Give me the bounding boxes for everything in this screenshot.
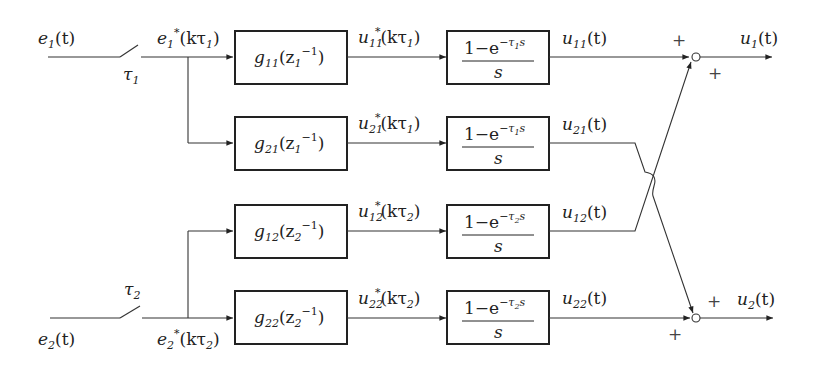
hold-block-1[interactable]: 1−e−τ1s s xyxy=(447,31,549,84)
label-u12-star: u12*(kτ2) xyxy=(358,199,420,224)
label-u11-star: u11*(kτ1) xyxy=(358,25,420,50)
svg-text:s: s xyxy=(494,148,503,168)
label-u11: u11(t) xyxy=(562,28,607,51)
sum1-sign-top: + xyxy=(672,30,686,50)
sampler-switch-2 xyxy=(120,306,233,318)
label-u22: u22(t) xyxy=(562,288,607,311)
branch-e2-to-g12 xyxy=(188,231,233,318)
sum2-sign-bottom: + xyxy=(668,324,682,344)
label-tau1: τ1 xyxy=(123,64,139,87)
svg-text:s: s xyxy=(494,322,503,342)
label-u12: u12(t) xyxy=(562,202,607,225)
label-e1: e1(t) xyxy=(38,28,75,51)
svg-text:s: s xyxy=(494,62,503,82)
controller-g12[interactable]: g12(z2−1) xyxy=(235,205,347,258)
label-u21-star: u21*(kτ1) xyxy=(358,111,420,136)
label-e2: e2(t) xyxy=(38,329,75,352)
label-u22-star: u22*(kτ2) xyxy=(358,286,420,311)
label-e2-sampled: e2*(kτ2) xyxy=(157,327,220,352)
controller-g11[interactable]: g11(z1−1) xyxy=(235,31,347,84)
controller-g21[interactable]: g21(z1−1) xyxy=(235,117,347,170)
label-tau2: τ2 xyxy=(124,279,140,302)
hold-block-4[interactable]: 1−e−τ2s s xyxy=(447,291,549,344)
label-u2: u2(t) xyxy=(737,289,775,312)
hold-block-2[interactable]: 1−e−τ1s s xyxy=(447,117,549,170)
label-u21: u21(t) xyxy=(562,114,607,137)
sum1-sign-bottom: + xyxy=(708,63,722,83)
branch-e1-to-g21 xyxy=(188,57,233,143)
label-u1: u1(t) xyxy=(740,28,778,51)
summing-junction-1 xyxy=(692,53,700,61)
summing-junction-2 xyxy=(692,314,700,322)
sum2-sign-top: + xyxy=(707,291,721,311)
label-e1-sampled: e1*(kτ1) xyxy=(157,26,220,51)
controller-g22[interactable]: g22(z2−1) xyxy=(235,291,347,344)
hold-block-3[interactable]: 1−e−τ2s s xyxy=(447,205,549,258)
svg-text:s: s xyxy=(494,236,503,256)
